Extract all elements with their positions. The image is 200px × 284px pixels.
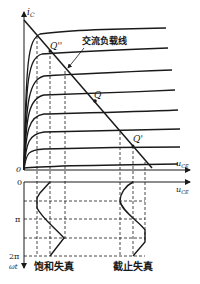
saturation-distortion-label: 饱和失真: [34, 260, 74, 272]
distortion-diagram: Q'' Q Q' 交流负载线 iC 0 uCE 0 π 2π ωt uCE 饱和…: [0, 0, 200, 284]
projection-lines: [37, 36, 145, 256]
lower-axes: [24, 182, 190, 268]
diagram-canvas: Q'' Q Q' 交流负载线 iC 0 uCE 0 π 2π ωt uCE 饱和…: [0, 0, 200, 284]
origin-label: 0: [16, 165, 21, 174]
wt-axis-label: ωt: [9, 263, 18, 271]
tick-0: 0: [17, 178, 22, 187]
phase-lines: [24, 201, 145, 256]
tick-pi: π: [15, 215, 20, 224]
load-line-label: 交流负载线: [82, 35, 127, 46]
load-line-pointer: [68, 48, 84, 68]
ic-axis-label: iC: [27, 7, 35, 18]
cutoff-distortion-label: 截止失真: [113, 260, 153, 272]
uce-label-lower: uCE: [176, 185, 189, 195]
uce-label-upper: uCE: [176, 159, 189, 169]
q-label: Q: [94, 90, 102, 100]
characteristic-curves: [24, 28, 180, 170]
tick-2pi: 2π: [9, 252, 19, 261]
q-double-prime-label: Q'': [50, 41, 62, 51]
q-prime-label: Q': [133, 134, 143, 144]
